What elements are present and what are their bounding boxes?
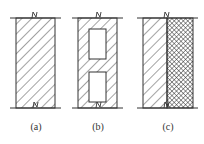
label-a: (a) bbox=[21, 121, 51, 132]
label-b: (b) bbox=[83, 121, 113, 132]
break-mark-icon bbox=[32, 12, 37, 18]
break-mark-icon bbox=[96, 12, 101, 18]
break-mark-icon bbox=[164, 12, 169, 18]
label-c: (c) bbox=[153, 121, 183, 132]
panel-c bbox=[137, 12, 198, 108]
panel-a bbox=[10, 12, 61, 108]
cavity-top bbox=[89, 29, 106, 59]
cavity-bottom bbox=[89, 72, 106, 102]
insulation-layer bbox=[167, 18, 193, 108]
panel-b bbox=[72, 12, 123, 108]
